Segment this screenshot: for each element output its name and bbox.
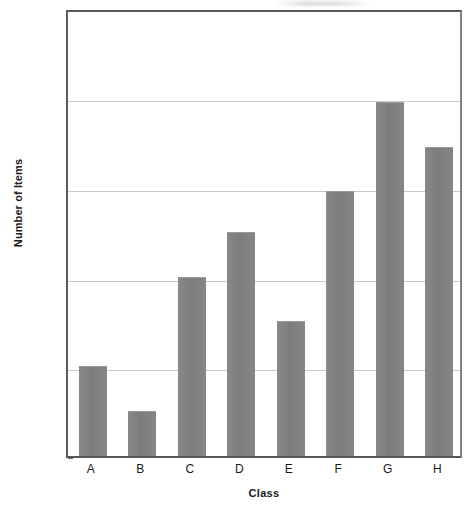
- x-axis-tick-label: A: [67, 462, 115, 476]
- x-axis-tick-label: F: [314, 462, 362, 476]
- bar-shading: [326, 192, 354, 456]
- x-axis-tick-label: B: [116, 462, 164, 476]
- x-axis-tick-label: E: [265, 462, 313, 476]
- bar: [128, 411, 156, 456]
- bar-shading: [178, 278, 206, 456]
- y-axis-title: Number of Items: [12, 133, 24, 273]
- scan-artifact: [276, 1, 372, 6]
- bar-shading: [79, 367, 107, 456]
- bar: [277, 321, 305, 456]
- bar-shading: [128, 412, 156, 456]
- bar: [425, 147, 453, 456]
- bar-shading: [277, 322, 305, 456]
- bar: [326, 191, 354, 456]
- bar: [178, 277, 206, 456]
- x-axis-tick-label: C: [166, 462, 214, 476]
- bar: [376, 102, 404, 456]
- y-axis-tick-mark: [68, 458, 73, 459]
- bar-chart-figure: Number of Items 100120140160180 ABCDEFGH…: [0, 0, 471, 505]
- bar-shading: [425, 148, 453, 456]
- bar: [227, 232, 255, 456]
- bar-shading: [376, 103, 404, 456]
- x-axis-title: Class: [66, 487, 462, 499]
- x-axis-tick-label: H: [413, 462, 461, 476]
- x-axis-tick-label: G: [364, 462, 412, 476]
- bar: [79, 366, 107, 456]
- bar-shading: [227, 233, 255, 456]
- plot-area: [66, 10, 462, 458]
- x-axis-tick-label: D: [215, 462, 263, 476]
